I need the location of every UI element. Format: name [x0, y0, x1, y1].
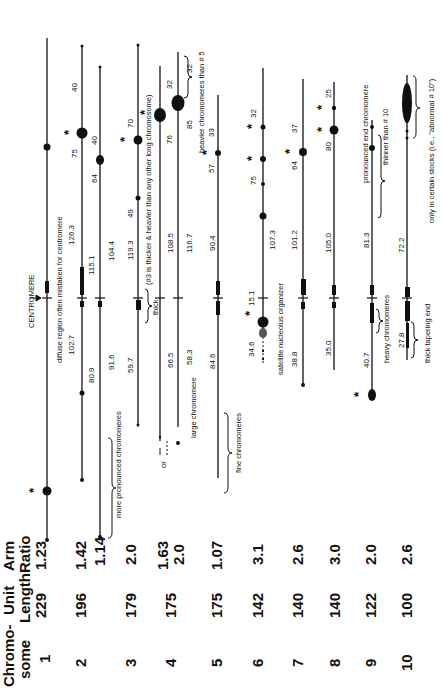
thick-label: thick: [151, 299, 160, 315]
unit-length: 229: [32, 593, 49, 618]
chromosome-number: 7: [289, 659, 306, 667]
header-chromosome-1: Chromo-: [0, 625, 17, 688]
unit-length: 140: [289, 593, 306, 618]
star-icon: *: [314, 104, 329, 110]
chr4-knob-left: 76: [165, 135, 174, 144]
thinner-than-label: thinner than # 10: [381, 109, 390, 165]
chr8-short-arm: 35.0: [324, 340, 333, 356]
star-icon: *: [244, 155, 259, 161]
star-icon: *: [282, 148, 297, 154]
more-pronounced-label: more pronounced chromomeres: [114, 411, 123, 518]
or-label: or: [159, 461, 168, 468]
heavy-chromomeres-label: heavy chromomeres: [382, 295, 391, 363]
chr7-short-arm: 38.8: [290, 351, 299, 367]
arm-ratio: 3.1: [249, 544, 266, 565]
unit-length: 140: [326, 593, 343, 618]
unit-length: 175: [208, 593, 225, 618]
chr2-alt-long-arm: 104.4: [107, 240, 116, 261]
chr1-short-arm: 102.7: [67, 334, 76, 355]
chr7-knob-left: 64: [290, 161, 299, 170]
thick-tapering-label: thick tapering end: [423, 304, 432, 363]
header-arm-1: Arm: [0, 541, 17, 571]
chr2-long-arm: 115.1: [87, 255, 96, 275]
chromosome-number: 8: [326, 659, 343, 667]
chr5-knob-left: 57: [207, 164, 216, 173]
unit-length: 142: [249, 593, 266, 618]
chr8-long-arm: 105.0: [324, 232, 333, 253]
diffuse-region-label: diffuse region often mistaken for centro…: [55, 216, 64, 363]
unit-length: 100: [398, 593, 415, 618]
arm-ratio: 1.23: [32, 541, 49, 570]
table-row: 8 140 3.0: [326, 544, 343, 667]
table-row: 5 175 1.07: [208, 541, 225, 667]
chr7-long-arm: 101.2: [290, 229, 299, 250]
chr3-long-arm: 119.3: [126, 240, 135, 260]
arm-ratio: 3.0: [326, 544, 343, 565]
chr9-long-arm: 81.3: [362, 232, 371, 248]
chromosome-lines: [47, 38, 407, 540]
arm-ratio-alt: 1.14: [91, 536, 108, 566]
arm-ratio: 1.07: [208, 541, 225, 570]
header-unit-2: Length: [16, 573, 33, 623]
chr3-short-arm: 59.7: [126, 357, 135, 373]
nucleolus-organizer-label: nucleolus organizer: [276, 282, 285, 348]
chr2-short-arm: 80.9: [87, 367, 96, 383]
arm-ratio: 2.0: [122, 544, 139, 565]
arm-ratio: 2.6: [289, 544, 306, 565]
table-row: 2 196 1.42 1.14: [72, 536, 108, 667]
chr5-short-arm: 84.6: [208, 353, 217, 369]
chr6-satellite-gap: 15.1: [247, 290, 256, 306]
chr5-knob-right: 33: [207, 128, 216, 137]
chr2-alt-short-arm: 91.6: [107, 354, 116, 370]
chr4-alt-knob-right: 32: [185, 64, 194, 73]
chr3-knob-right: 70: [126, 119, 135, 128]
chr3-knob-left: 49: [126, 209, 135, 218]
satellite-label: satellite: [276, 350, 285, 375]
star-icon: *: [351, 391, 366, 397]
chr9-short-arm: 40.7: [362, 352, 371, 368]
chromosome-number: 4: [162, 658, 179, 667]
table-row: 7 140 2.6: [289, 544, 306, 667]
table-row: 9 122 2.0: [362, 544, 379, 667]
table-row: 4 175 1.63 2.0: [154, 541, 187, 667]
chr6-short-arm: 34.6: [247, 341, 256, 357]
unit-length: 179: [122, 593, 139, 618]
chromosome-number: 2: [72, 659, 89, 667]
header-unit-1: Unit: [0, 586, 17, 615]
table-row: 10 100 2.6: [398, 544, 415, 671]
fine-chromomeres-label: fine chromomeres: [234, 413, 243, 473]
chr8-knob-left: 80: [324, 142, 333, 151]
header-chromosome-2: some: [16, 640, 33, 679]
chr1-long-arm: 126.3: [67, 224, 76, 245]
large-chromomere-label: large chromomere: [189, 377, 198, 438]
chromosome-number: 10: [398, 654, 415, 671]
chromosome-number: 5: [208, 659, 225, 667]
star-icon: *: [314, 126, 329, 132]
data-table: Chromo- some Unit Length Arm Ratio 1 229…: [0, 536, 415, 688]
chr2-alt-knob-left: 64: [90, 174, 99, 183]
chromosome-diagram: Chromo- some Unit Length Arm Ratio 1 229…: [0, 0, 442, 693]
chr4-alt-short-arm: 58.3: [185, 349, 194, 365]
unit-length: 122: [362, 593, 379, 618]
chr2-alt-knob-right: 40: [90, 136, 99, 145]
chr10-short-arm: 27.8: [397, 332, 406, 348]
chr8-knob-right: 25: [324, 89, 333, 98]
unit-length: 196: [72, 593, 89, 618]
chromosome-number: 9: [362, 659, 379, 667]
star-icon: *: [117, 136, 132, 142]
chromosome-number: 1: [36, 655, 53, 663]
chromosome-number: 3: [122, 659, 139, 667]
star-icon: *: [61, 129, 76, 135]
chr2-knob-right: 40: [70, 83, 79, 92]
chr3-note-label: (#3 is thicker & heavier than any other …: [144, 94, 153, 285]
chr4-alt-knob-left: 85: [185, 120, 194, 129]
chr10-long-arm: 72.2: [397, 237, 406, 253]
heavier-chromomeres-label: heavier chromomeres than # 5: [197, 51, 206, 153]
chr7-knob-right: 37: [290, 124, 299, 133]
chr6-knob-left: 75: [249, 176, 258, 185]
arm-ratio: 2.0: [362, 544, 379, 565]
arm-lengths: 102.7 126.3 80.9 115.1 91.6 104.4 59.7 1…: [67, 224, 406, 383]
table-row: 6 142 3.1: [249, 544, 266, 667]
chr2-knob-left: 75: [70, 149, 79, 158]
chr5-long-arm: 90.4: [208, 235, 217, 251]
